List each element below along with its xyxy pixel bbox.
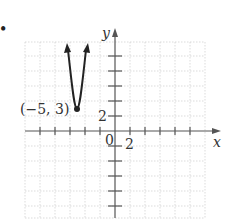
y-axis bbox=[108, 28, 122, 218]
x-axis bbox=[25, 127, 221, 135]
origin-label: 0 bbox=[105, 132, 114, 148]
y-axis-arrow-icon bbox=[112, 28, 118, 37]
bullet: • bbox=[0, 19, 6, 39]
x-tick-label: 2 bbox=[125, 136, 134, 152]
y-tick-label: 2 bbox=[98, 108, 107, 124]
x-axis-label: x bbox=[213, 134, 221, 150]
vertex-point bbox=[74, 106, 80, 112]
parabola-graph: • x y 0 2 2 (−5, 3) bbox=[0, 0, 231, 223]
right-arrow-icon bbox=[83, 43, 90, 53]
y-axis-label: y bbox=[101, 25, 111, 41]
vertex-label: (−5, 3) bbox=[20, 101, 69, 117]
